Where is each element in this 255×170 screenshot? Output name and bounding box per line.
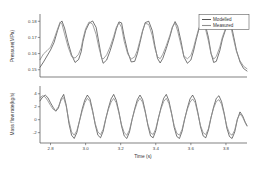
y-tick-label: 0.17 xyxy=(28,35,37,40)
x-axis-label: Time (s) xyxy=(134,154,152,159)
legend-label-measured: Measured xyxy=(213,23,234,28)
series-line-measured xyxy=(40,96,247,136)
y-tick-label: 2 xyxy=(34,104,37,109)
bottom-panel-series xyxy=(40,94,247,138)
bottom-panel-y-axis-label: Mass flow rate(kg/s) xyxy=(10,92,15,135)
legend: Modelled Measured xyxy=(199,15,249,30)
x-tick-label: 2.8 xyxy=(47,146,54,151)
figure-root: 0.150.160.170.18 Pressure(MPa) -2024 2.8… xyxy=(0,0,255,170)
bottom-panel-x-ticks: 2.83.03.23.43.63.8 xyxy=(47,143,229,151)
legend-label-modelled: Modelled xyxy=(213,17,232,22)
bottom-panel-y-ticks: -2024 xyxy=(33,91,40,135)
x-tick-label: 3.8 xyxy=(223,146,230,151)
chart-svg: 0.150.160.170.18 Pressure(MPa) -2024 2.8… xyxy=(0,0,255,170)
top-panel-y-ticks: 0.150.160.170.18 xyxy=(28,19,40,72)
bottom-panel: -2024 2.83.03.23.43.63.8 Mass flow rate(… xyxy=(10,86,247,159)
y-tick-label: 0.15 xyxy=(28,67,37,72)
y-tick-label: 4 xyxy=(34,91,37,96)
series-line-modelled xyxy=(40,94,247,138)
y-tick-label: 0.16 xyxy=(28,51,37,56)
top-panel-y-axis-label: Pressure(MPa) xyxy=(10,29,15,62)
x-tick-label: 3.6 xyxy=(188,146,195,151)
y-tick-label: 0.18 xyxy=(28,19,37,24)
x-tick-label: 3.0 xyxy=(83,146,90,151)
y-tick-label: 0 xyxy=(34,117,37,122)
x-tick-label: 3.2 xyxy=(118,146,125,151)
y-tick-label: -2 xyxy=(33,130,37,135)
x-tick-label: 3.4 xyxy=(153,146,160,151)
